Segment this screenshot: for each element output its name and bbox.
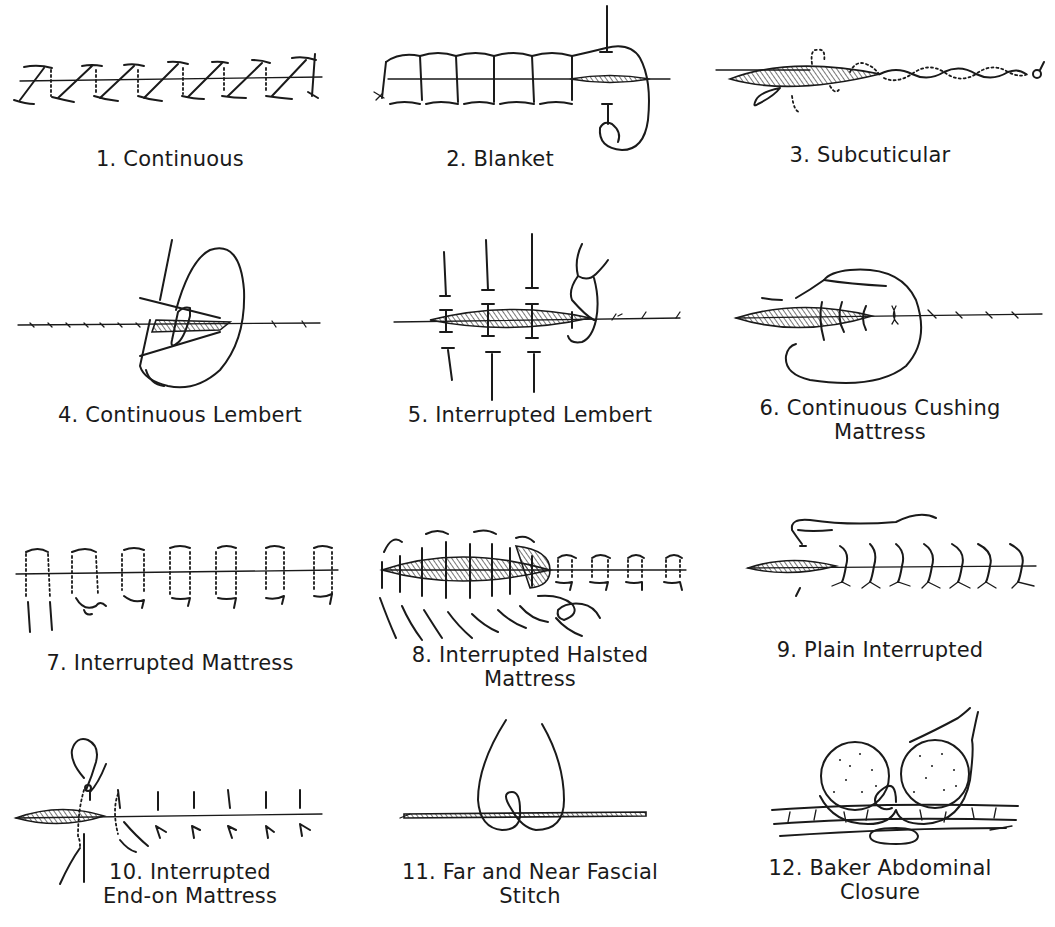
panel-interrupted-end-on-mattress: 10. Interrupted End-on Mattress <box>0 700 360 927</box>
panel-label: 3. Subcuticular <box>770 143 970 167</box>
subcuticular-suture-illustration <box>700 0 1055 200</box>
panel-interrupted-halsted-mattress: 8. Interrupted Halsted Mattress <box>360 470 700 700</box>
panel-continuous-cushing-mattress: 6. Continuous Cushing Mattress <box>700 220 1055 450</box>
panel-plain-interrupted: 9. Plain Interrupted <box>700 470 1055 700</box>
panel-label: 11. Far and Near Fascial Stitch <box>380 860 680 908</box>
panel-far-and-near-fascial-stitch: 11. Far and Near Fascial Stitch <box>360 700 700 927</box>
panel-label: 10. Interrupted End-on Mattress <box>80 860 300 908</box>
panel-interrupted-mattress: 7. Interrupted Mattress <box>0 470 360 700</box>
panel-label: 7. Interrupted Mattress <box>20 651 320 675</box>
panel-blanket: 2. Blanket <box>360 0 700 200</box>
panel-label: 6. Continuous Cushing Mattress <box>730 396 1030 444</box>
panel-baker-abdominal-closure: 12. Baker Abdominal Closure <box>700 700 1055 927</box>
panel-label: 5. Interrupted Lembert <box>380 403 680 427</box>
panel-subcuticular: 3. Subcuticular <box>700 0 1055 200</box>
plain-interrupted-illustration <box>700 470 1055 700</box>
panel-label: 1. Continuous <box>70 147 270 171</box>
panel-label: 12. Baker Abdominal Closure <box>730 856 1030 904</box>
panel-label: 4. Continuous Lembert <box>30 403 330 427</box>
panel-label: 2. Blanket <box>400 147 600 171</box>
panel-interrupted-lembert: 5. Interrupted Lembert <box>360 220 700 450</box>
panel-label: 9. Plain Interrupted <box>730 638 1030 662</box>
panel-continuous-lembert: 4. Continuous Lembert <box>0 220 360 450</box>
panel-continuous: 1. Continuous <box>0 0 350 200</box>
panel-label: 8. Interrupted Halsted Mattress <box>380 643 680 691</box>
